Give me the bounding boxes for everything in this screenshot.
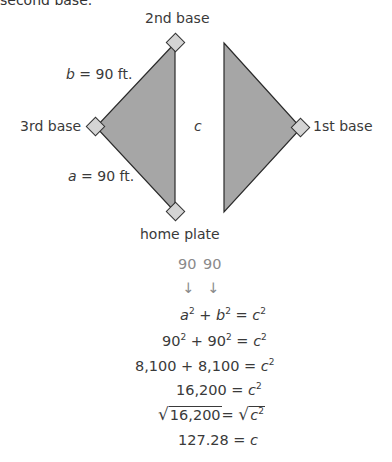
var-a: a (68, 168, 77, 184)
equation-line-4: 16,200 = c2 (176, 382, 262, 398)
annotation-a-value: 90 (178, 256, 196, 272)
side-a-value: = 90 ft. (77, 168, 135, 184)
second-base-label: 2nd base (145, 10, 210, 26)
annotation-b-value: 90 (203, 256, 221, 272)
equation-line-3: 8,100 + 8,100 = c2 (135, 358, 274, 374)
arrow-down-icon: ↓ (182, 280, 194, 296)
equation-line-2: 902 + 902 = c2 (162, 333, 267, 349)
right-triangle (224, 43, 301, 212)
side-a-label: a = 90 ft. (68, 168, 134, 184)
first-base-label: 1st base (313, 118, 373, 134)
equation-line-6: 127.28 = c (178, 432, 258, 448)
side-b-value: = 90 ft. (75, 66, 133, 82)
home-plate-label: home plate (140, 226, 220, 242)
equation-line-5: √16,200= √c2 (158, 404, 265, 424)
hypotenuse-label: c (194, 118, 202, 134)
arrow-down-icon: ↓ (207, 280, 219, 296)
equation-line-1: a2 + b2 = c2 (180, 307, 266, 323)
var-b: b (66, 66, 75, 82)
side-b-label: b = 90 ft. (66, 66, 132, 82)
third-base-label: 3rd base (20, 118, 81, 134)
